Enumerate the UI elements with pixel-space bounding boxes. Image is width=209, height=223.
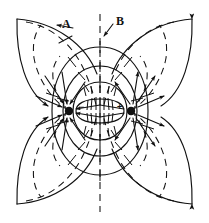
tick-med-ur: [115, 72, 122, 80]
field-line-from-pos-10: [115, 118, 130, 140]
hatch-1: [87, 100, 88, 110]
hatch-14: [112, 113, 113, 122]
field-line-outer-left-lower: [17, 117, 48, 204]
dipole-field-figure: A B − +: [0, 0, 209, 223]
tick-large-lr: [124, 155, 132, 165]
leader-line-a: [59, 36, 72, 43]
hatch-out-6: [84, 88, 86, 96]
field-line-from-pos-4: [138, 96, 164, 107]
field-line-lobe-top-left: [17, 19, 97, 74]
tick-large-ll: [68, 155, 76, 165]
equipotential-outer-lr: [103, 114, 174, 201]
tick-large-ul: [68, 57, 76, 67]
field-diagram-svg: [0, 0, 209, 223]
tick-med-l2: [57, 121, 69, 124]
tick-large-r2: [142, 125, 154, 129]
positive-charge-dot: [127, 107, 135, 115]
field-line-outer-right-upper: [161, 19, 192, 106]
tick-large-ur: [124, 57, 132, 67]
hatch-out-7: [91, 86, 92, 94]
positive-charge-sign: +: [117, 103, 122, 112]
field-line-from-pos-5: [138, 115, 164, 126]
field-line-outer-left-upper: [17, 19, 48, 106]
hatch-7: [112, 100, 113, 110]
tick-large-l2: [46, 125, 58, 129]
tick-med-r2: [131, 121, 143, 124]
field-line-to-neg-9: [70, 82, 85, 104]
hatch-out-10: [114, 88, 116, 96]
field-line-to-neg-5: [36, 115, 62, 126]
label-a: A: [62, 18, 71, 30]
hatch-8: [87, 113, 88, 122]
field-line-to-neg-10: [70, 118, 85, 140]
field-line-to-neg-4: [36, 96, 62, 107]
hatch-out-1: [84, 126, 86, 134]
tick-med-ul: [78, 72, 85, 80]
field-line-lobe-bottom-left: [17, 149, 97, 204]
field-line-from-pos-9: [115, 82, 130, 104]
hatch-out-2: [91, 128, 92, 136]
leader-arrow-b: [104, 24, 113, 36]
tick-med-lr: [115, 142, 122, 150]
tick-med-r: [131, 98, 143, 101]
tick-med-ll: [78, 142, 85, 150]
field-line-lobe-top-right: [112, 19, 192, 74]
tick-large-r: [142, 93, 154, 97]
tick-med-l: [57, 98, 69, 101]
hatch-out-4: [108, 128, 109, 136]
field-lines: [17, 19, 192, 204]
label-b: B: [116, 15, 124, 27]
negative-charge-sign: −: [79, 103, 84, 112]
hatch-out-5: [114, 126, 116, 134]
field-line-lobe-bottom-right: [112, 149, 192, 204]
negative-charge-dot: [65, 107, 73, 115]
tick-large-l: [46, 93, 58, 97]
hatch-out-9: [108, 86, 109, 94]
